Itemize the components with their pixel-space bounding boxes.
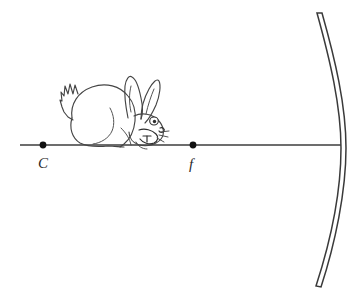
concave-mirror (316, 13, 346, 287)
rabbit-eye-pupil (153, 120, 156, 123)
rabbit-left-ear (125, 76, 143, 119)
rabbit-back (72, 85, 136, 147)
point-dot-center-of-curvature (40, 142, 47, 149)
diagram-drawing: C f (0, 0, 361, 299)
rabbit-whisker-upper (160, 131, 169, 132)
point-dot-focal-point (190, 142, 197, 149)
rabbit-haunch (93, 108, 114, 144)
rabbit-object (60, 76, 169, 149)
label-center-of-curvature: C (38, 155, 49, 171)
label-focal-point: f (189, 156, 195, 172)
rabbit-tail (60, 84, 78, 120)
rabbit-right-ear (141, 80, 160, 123)
optics-diagram-canvas: C f (0, 0, 361, 299)
